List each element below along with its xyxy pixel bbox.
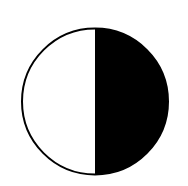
half-filled-circle-diagram (0, 0, 188, 186)
